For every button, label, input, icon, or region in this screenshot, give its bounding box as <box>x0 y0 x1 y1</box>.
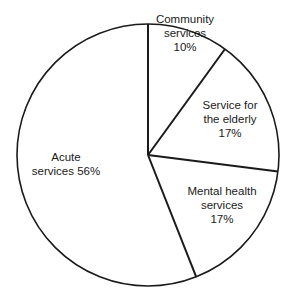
slice-label: Service forthe elderly17% <box>203 98 258 140</box>
slice-label-line: Acute <box>32 150 100 164</box>
slice-label-line: Community <box>156 12 214 26</box>
slice-label-line: 10% <box>156 40 214 54</box>
slice-label-line: 17% <box>187 212 256 226</box>
slice-label-line: the elderly <box>203 112 258 126</box>
slice-label-line: services <box>187 198 256 212</box>
slice-label-line: Mental health <box>187 184 256 198</box>
slice-label: Mental healthservices17% <box>187 184 256 226</box>
slice-label-line: 17% <box>203 126 258 140</box>
slice-label: Acuteservices 56% <box>32 150 100 178</box>
slice-label-line: services <box>156 26 214 40</box>
slice-label-line: services 56% <box>32 164 100 178</box>
slice-label-line: Service for <box>203 98 258 112</box>
slice-label: Communityservices10% <box>156 12 214 54</box>
